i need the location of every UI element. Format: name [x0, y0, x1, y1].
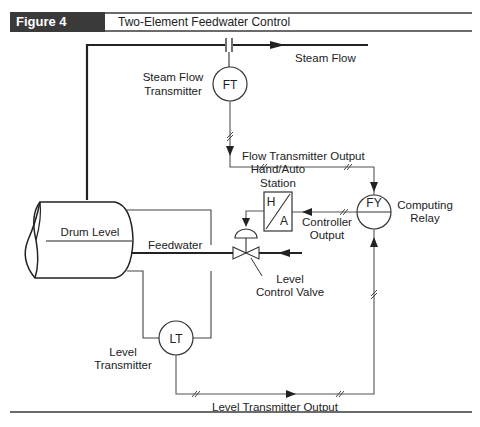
fy-label-1: Computing	[397, 199, 453, 211]
hand-auto-label-2: Station	[260, 177, 296, 189]
valve-label-2: Control Valve	[256, 286, 324, 298]
flow-transmitter: FT Steam Flow Transmitter	[143, 52, 247, 101]
feedwater-control-diagram: Steam Flow FT Steam Flow Transmitter Flo…	[0, 0, 480, 427]
controller-output-label-1: Controller	[302, 216, 352, 228]
ft-tag: FT	[223, 78, 238, 92]
computing-relay: FY Computing Relay	[357, 195, 453, 229]
fy-label-2: Relay	[410, 212, 440, 224]
lt-label-1: Level	[109, 346, 137, 358]
feedwater-label: Feedwater	[148, 239, 203, 251]
feedwater-pipe: Feedwater	[131, 239, 302, 257]
fy-tag: FY	[366, 196, 381, 210]
controller-output-signal: Controller Output	[292, 208, 357, 241]
valve-label-1: Level	[276, 273, 304, 285]
steam-pipe: Steam Flow	[87, 38, 368, 200]
level-impulse-lines	[127, 210, 211, 338]
steam-flow-label: Steam Flow	[295, 52, 356, 64]
lt-label-2: Transmitter	[94, 359, 152, 371]
lt-tag: LT	[169, 332, 183, 346]
auto-label: A	[280, 214, 288, 228]
valve-actuator-icon	[235, 229, 257, 238]
level-transmitter: LT Level Transmitter	[94, 321, 193, 371]
ft-label-1: Steam Flow	[143, 71, 204, 83]
valve-body-icon	[233, 247, 246, 259]
footer-rule	[10, 411, 472, 413]
flow-transmitter-output-signal: Flow Transmitter Output	[226, 101, 378, 195]
ft-label-2: Transmitter	[144, 85, 202, 97]
flow-transmitter-output-label: Flow Transmitter Output	[242, 150, 366, 162]
steam-drum: Drum Level	[25, 202, 133, 278]
hand-auto-label-1: Hand/Auto	[251, 163, 305, 175]
hand-auto-station: H A Hand/Auto Station	[242, 163, 305, 231]
level-transmitter-output-signal: Level Transmitter Output	[176, 229, 378, 413]
drum-level-label: Drum Level	[61, 226, 120, 238]
controller-output-label-2: Output	[310, 229, 345, 241]
hand-label: H	[267, 195, 276, 209]
